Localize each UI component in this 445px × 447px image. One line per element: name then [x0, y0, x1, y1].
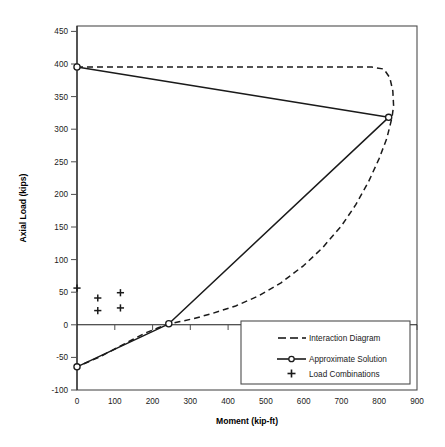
y-axis-ticks: [71, 31, 77, 390]
legend-label: Load Combinations: [309, 370, 380, 379]
y-tick-label: 200: [54, 190, 68, 199]
x-tick-label: 600: [297, 397, 311, 406]
data-point-marker: [386, 114, 392, 120]
data-point-marker: [74, 364, 80, 370]
x-tick-label: 900: [410, 397, 424, 406]
x-tick-label: 0: [75, 397, 80, 406]
y-tick-label: -50: [56, 353, 68, 362]
load-combination-marker: [73, 284, 80, 291]
y-tick-label: 350: [54, 93, 68, 102]
y-tick-label: 0: [63, 321, 68, 330]
x-tick-label: 700: [335, 397, 349, 406]
y-tick-label: 250: [54, 158, 68, 167]
legend-label: Interaction Diagram: [309, 334, 381, 343]
x-tick-label: 500: [259, 397, 273, 406]
x-tick-label: 800: [372, 397, 386, 406]
load-combination-marker: [117, 289, 124, 296]
load-combination-marker: [117, 304, 124, 311]
interaction-diagram-chart: -100 -50 0 50 100 150 200 250 300 350 40…: [0, 0, 445, 447]
y-tick-label: 150: [54, 223, 68, 232]
y-tick-label: -100: [52, 386, 69, 395]
load-combination-marker: [94, 294, 101, 301]
x-tick-label: 100: [108, 397, 122, 406]
legend-label: Approximate Solution: [309, 355, 387, 364]
chart-figure: -100 -50 0 50 100 150 200 250 300 350 40…: [0, 0, 445, 447]
y-axis-tick-labels: -100 -50 0 50 100 150 200 250 300 350 40…: [52, 27, 69, 395]
load-combination-marker: [94, 307, 101, 314]
x-tick-label: 300: [183, 397, 197, 406]
y-tick-label: 450: [54, 27, 68, 36]
chart-legend: Interaction Diagram Approximate Solution…: [241, 321, 410, 384]
y-axis-title: Axial Load (kips): [18, 173, 28, 242]
series-load-combinations-markers: [73, 284, 124, 314]
x-tick-label: 400: [221, 397, 235, 406]
y-tick-label: 400: [54, 60, 68, 69]
x-axis-title: Moment (kip-ft): [216, 416, 278, 426]
y-tick-label: 300: [54, 125, 68, 134]
y-tick-label: 100: [54, 256, 68, 265]
y-tick-label: 50: [59, 288, 69, 297]
data-point-marker: [74, 64, 80, 70]
legend-circle-marker-icon: [289, 356, 294, 361]
x-axis-tick-labels: 0 100 200 300 400 500 600 700 800 900: [75, 397, 425, 406]
data-point-marker: [166, 321, 172, 327]
x-tick-label: 200: [146, 397, 160, 406]
